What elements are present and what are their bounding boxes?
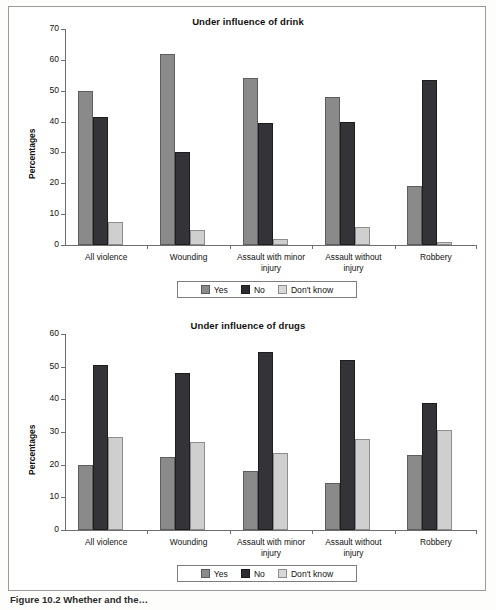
legend-swatch-dk-icon xyxy=(278,285,287,294)
bar-don-t-know-0 xyxy=(108,437,123,530)
y-axis-tick-label: 50 xyxy=(31,361,59,371)
x-axis-tick xyxy=(395,530,396,534)
bar-yes-2 xyxy=(243,471,258,530)
legend-swatch-dk-icon xyxy=(278,569,287,578)
x-axis-category-label: Assault without injury xyxy=(306,252,400,274)
bar-no-4 xyxy=(422,80,437,245)
chart-panel-drugs: Under influence of drugs Percentages 010… xyxy=(9,312,487,592)
bar-yes-1 xyxy=(160,54,175,245)
bar-no-1 xyxy=(175,152,190,245)
chart-title-drugs: Under influence of drugs xyxy=(39,320,457,331)
y-axis-tick xyxy=(61,245,65,246)
y-axis-tick xyxy=(61,183,65,184)
legend-item-yes[interactable]: Yes xyxy=(201,285,228,295)
y-axis-tick xyxy=(61,334,65,335)
x-axis-tick xyxy=(230,530,231,534)
y-axis-tick-label: 10 xyxy=(31,491,59,501)
bar-no-1 xyxy=(175,373,190,530)
legend-swatch-no-icon xyxy=(241,285,250,294)
x-axis-line xyxy=(65,530,477,531)
y-axis-tick xyxy=(61,152,65,153)
y-axis-line xyxy=(65,29,66,245)
legend-label-no: No xyxy=(254,569,265,579)
x-axis-tick xyxy=(230,245,231,249)
legend-swatch-yes-icon xyxy=(201,569,210,578)
x-axis-category-label: Assault with minor injury xyxy=(224,252,318,274)
y-axis-tick xyxy=(61,29,65,30)
y-axis-tick xyxy=(61,122,65,123)
x-axis-category-label: Wounding xyxy=(141,537,235,548)
x-axis-tick xyxy=(312,530,313,534)
x-axis-tick xyxy=(147,530,148,534)
bar-yes-1 xyxy=(160,457,175,531)
bar-yes-0 xyxy=(78,91,93,245)
bar-don-t-know-0 xyxy=(108,222,123,245)
plot-area-drink: 010203040506070All violenceWoundingAssau… xyxy=(65,29,477,245)
legend-item-no[interactable]: No xyxy=(241,285,265,295)
y-axis-tick xyxy=(61,214,65,215)
x-axis-tick xyxy=(395,245,396,249)
x-axis-tick xyxy=(147,245,148,249)
bar-yes-0 xyxy=(78,465,93,530)
x-axis-tick xyxy=(476,530,477,534)
figure-caption: Figure 10.2 Whether and the… xyxy=(10,594,480,608)
y-axis-tick-label: 50 xyxy=(31,85,59,95)
y-axis-tick-label: 20 xyxy=(31,177,59,187)
legend-item-yes[interactable]: Yes xyxy=(201,569,228,579)
x-axis-category-label: Robbery xyxy=(389,252,483,263)
y-axis-tick xyxy=(61,60,65,61)
x-axis-category-label: All violence xyxy=(59,252,153,263)
bar-don-t-know-2 xyxy=(273,453,288,530)
bar-don-t-know-2 xyxy=(273,239,288,245)
x-axis-category-label: Robbery xyxy=(389,537,483,548)
legend-label-dk: Don't know xyxy=(291,285,333,295)
plot-area-drugs: 0102030405060All violenceWoundingAssault… xyxy=(65,334,477,530)
bar-no-3 xyxy=(340,122,355,245)
y-axis-tick-label: 10 xyxy=(31,208,59,218)
x-axis-category-label: Assault with minor injury xyxy=(224,537,318,559)
legend-drugs: YesNoDon't know xyxy=(177,565,357,582)
legend-item-no[interactable]: No xyxy=(241,569,265,579)
x-axis-category-label: Wounding xyxy=(141,252,235,263)
y-axis-tick-label: 40 xyxy=(31,393,59,403)
y-axis-tick xyxy=(61,465,65,466)
legend-item-dk[interactable]: Don't know xyxy=(278,285,333,295)
bar-yes-3 xyxy=(325,97,340,245)
y-axis-tick xyxy=(61,399,65,400)
legend-item-dk[interactable]: Don't know xyxy=(278,569,333,579)
bar-yes-2 xyxy=(243,78,258,245)
figure-page: Under influence of drink Percentages 010… xyxy=(0,0,496,610)
x-axis-line xyxy=(65,245,477,246)
bar-don-t-know-1 xyxy=(190,442,205,530)
bar-don-t-know-3 xyxy=(355,227,370,246)
y-axis-tick-label: 60 xyxy=(31,328,59,338)
legend-label-dk: Don't know xyxy=(291,569,333,579)
y-axis-line xyxy=(65,334,66,530)
x-axis-tick xyxy=(476,245,477,249)
legend-label-no: No xyxy=(254,285,265,295)
bar-yes-4 xyxy=(407,186,422,245)
chart-title-drink: Under influence of drink xyxy=(39,16,457,27)
bar-no-2 xyxy=(258,123,273,245)
bar-don-t-know-1 xyxy=(190,230,205,245)
y-axis-tick xyxy=(61,432,65,433)
y-axis-tick-label: 70 xyxy=(31,23,59,33)
legend-swatch-no-icon xyxy=(241,569,250,578)
bar-don-t-know-4 xyxy=(437,430,452,530)
legend-swatch-yes-icon xyxy=(201,285,210,294)
y-axis-tick xyxy=(61,367,65,368)
legend-drink: YesNoDon't know xyxy=(177,281,357,298)
bar-no-0 xyxy=(93,365,108,530)
bar-no-0 xyxy=(93,117,108,245)
bar-yes-4 xyxy=(407,455,422,530)
y-axis-tick-label: 30 xyxy=(31,146,59,156)
y-axis-tick-label: 40 xyxy=(31,116,59,126)
x-axis-category-label: Assault without injury xyxy=(306,537,400,559)
y-axis-tick-label: 60 xyxy=(31,54,59,64)
bar-no-3 xyxy=(340,360,355,530)
y-axis-tick xyxy=(61,530,65,531)
x-axis-category-label: All violence xyxy=(59,537,153,548)
y-axis-tick xyxy=(61,497,65,498)
y-axis-tick xyxy=(61,91,65,92)
chart-panel-drink: Under influence of drink Percentages 010… xyxy=(9,9,487,309)
